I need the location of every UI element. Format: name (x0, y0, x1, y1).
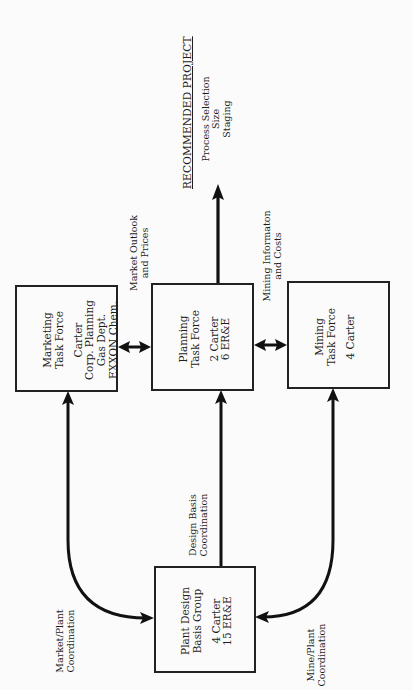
node-title-line: Planning (178, 286, 190, 393)
plant-design-basis-group-text: Plant Design Basis Group 4 Carter 15 ER&… (180, 568, 234, 675)
mining-task-force-box: Mining Task Force 4 Carter (287, 281, 390, 389)
market-outlook-label: Market Outlook and Prices (129, 203, 155, 303)
output-arrow (212, 184, 224, 283)
marketing-task-force-box: Marketing Task Force Carter Corp. Planni… (15, 285, 118, 392)
design-basis-label: Design Basis Coordination (188, 485, 214, 565)
recommended-project-title: RECOMMENDED PROJECT (182, 49, 194, 189)
mining-task-force-text: Mining Task Force 4 Carter (314, 284, 368, 391)
node-title-line: Marketing (42, 287, 54, 394)
marketing-task-force-text: Marketing Task Force Carter Corp. Planni… (42, 287, 96, 394)
node-member-line: 6 ER&E (220, 286, 232, 393)
node-member-line: 4 Carter (344, 284, 356, 391)
planning-task-force-text: Planning Task Force 2 Carter 6 ER&E (178, 286, 232, 393)
mine-plant-curve-arrow (255, 388, 339, 623)
node-title-line: Plant Design (180, 568, 192, 675)
node-title-line: Task Force (53, 287, 65, 394)
market-plant-label: Market/Plant Coordination (55, 603, 81, 679)
edge-label-line: Coordination (317, 617, 328, 690)
mine-plant-label: Mine/Plant Coordination (306, 617, 332, 690)
market-outlook-double-arrow (118, 341, 151, 353)
recommended-project-block: RECOMMENDED PROJECT Process Selection Si… (182, 49, 244, 189)
node-title-line: Task Force (189, 286, 201, 393)
output-item: Staging (222, 49, 233, 189)
edge-label-line: Coordination (66, 603, 77, 679)
node-member-line: Gas Dept. (96, 287, 108, 394)
node-title-line: Basis Group (191, 568, 203, 675)
node-title-line: Task Force (325, 284, 337, 391)
design-basis-arrow (215, 390, 227, 566)
planning-task-force-box: Planning Task Force 2 Carter 6 ER&E (151, 283, 254, 391)
mining-info-double-arrow (254, 339, 287, 351)
mining-info-label: Mining Informaton and Costs (262, 201, 288, 311)
plant-design-basis-group-box: Plant Design Basis Group 4 Carter 15 ER&… (154, 566, 256, 673)
edge-label-line: Coordination (199, 485, 210, 565)
node-member-line: 15 ER&E (222, 568, 234, 675)
edge-label-line: and Costs (273, 201, 284, 311)
edge-label-line: and Prices (140, 203, 151, 303)
node-title-line: Mining (314, 284, 326, 391)
market-plant-curve-arrow (62, 391, 154, 624)
node-member-line: EXXON Chem. (107, 287, 119, 394)
